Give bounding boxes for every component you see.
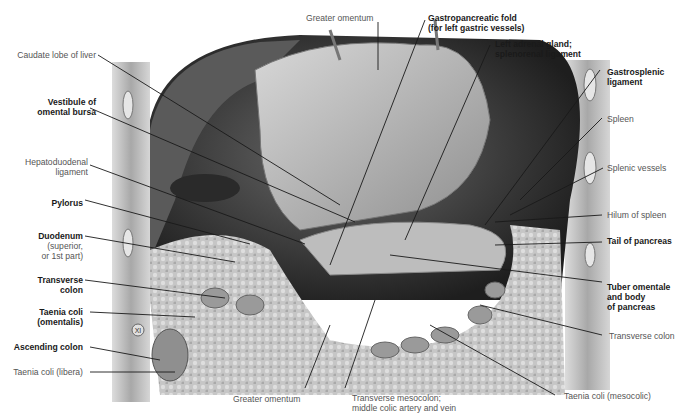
label-hepatoduodenal-ligament: Hepatoduodenalligament — [25, 157, 88, 177]
label-duodenum: Duodenum(superior,or 1st part) — [38, 231, 83, 261]
pancreas — [300, 222, 506, 275]
label-greater-omentum-bottom: Greater omentum — [233, 394, 300, 404]
label-taenia-coli-libera: Taenia coli (libera) — [13, 367, 83, 377]
label-ascending-colon: Ascending colon — [14, 342, 83, 352]
label-gastrosplenic-ligament: Gastrosplenicligament — [607, 67, 664, 87]
label-spleen: Spleen — [607, 114, 634, 124]
label-left-adrenal-gland: Left adrenal gland;splenorenal ligament — [495, 39, 581, 59]
label-pylorus: Pylorus — [51, 198, 83, 208]
label-taenia-coli-omentalis: Taenia coli(omentalis) — [37, 307, 83, 327]
label-taenia-coli-mesocolic: Taenia coli (mesocolic) — [564, 391, 651, 401]
rib-marker: XI — [135, 327, 142, 334]
label-transverse-colon-right: Transverse colon — [609, 331, 675, 341]
label-vestibule-omental-bursa: Vestibule ofomental bursa — [37, 97, 96, 117]
label-gastropancreatic-fold: Gastropancreatic fold(for left gastric v… — [428, 13, 524, 33]
label-splenic-vessels: Splenic vessels — [607, 163, 666, 173]
label-caudate-lobe: Caudate lobe of liver — [17, 50, 96, 60]
label-tuber-omentale: Tuber omentaleand bodyof pancreas — [607, 282, 670, 312]
ascending-colon — [152, 329, 188, 381]
anatomy-illustration: XI — [0, 0, 686, 417]
label-transverse-mesocolon: Transverse mesocolon;middle colic artery… — [352, 393, 456, 413]
label-tail-of-pancreas: Tail of pancreas — [607, 236, 672, 246]
anatomy-figure: XI — [0, 0, 686, 417]
label-hilum-of-spleen: Hilum of spleen — [607, 210, 666, 220]
label-transverse-colon-left: Transversecolon — [38, 275, 83, 295]
label-greater-omentum-top: Greater omentum — [306, 13, 373, 23]
